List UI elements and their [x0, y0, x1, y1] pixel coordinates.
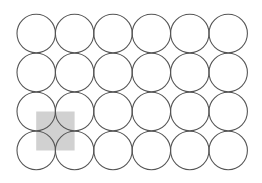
circle-r1-c4 — [132, 14, 170, 52]
circle-r2-c1 — [17, 53, 55, 91]
highlight-square — [36, 112, 74, 151]
circle-r3-c4 — [132, 92, 170, 130]
circle-r3-c3 — [94, 92, 132, 130]
circle-r4-c4 — [132, 131, 170, 169]
circle-r4-c6 — [209, 131, 247, 169]
circle-r1-c6 — [209, 14, 247, 52]
shaded-square — [36, 112, 74, 151]
circle-r3-c5 — [171, 92, 209, 130]
circle-grid-diagram — [0, 0, 262, 183]
circle-r3-c6 — [209, 92, 247, 130]
circle-r4-c3 — [94, 131, 132, 169]
circle-r2-c2 — [55, 53, 93, 91]
circle-r4-c5 — [171, 131, 209, 169]
circle-r2-c5 — [171, 53, 209, 91]
circle-r1-c1 — [17, 14, 55, 52]
circle-r1-c3 — [94, 14, 132, 52]
circle-r2-c3 — [94, 53, 132, 91]
circle-r1-c5 — [171, 14, 209, 52]
circle-r2-c4 — [132, 53, 170, 91]
circle-r2-c6 — [209, 53, 247, 91]
circle-r1-c2 — [55, 14, 93, 52]
